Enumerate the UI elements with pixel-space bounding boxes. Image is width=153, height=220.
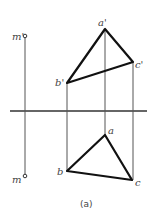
triangle-front-view — [67, 29, 133, 83]
label-m-prime: m' — [12, 31, 24, 42]
label-a: a — [108, 125, 114, 136]
label-c-prime: c' — [135, 59, 143, 70]
triangle-top-view — [67, 135, 132, 180]
label-b: b — [57, 166, 63, 177]
figure-caption: (a) — [80, 199, 93, 209]
label-a-prime: a' — [98, 17, 107, 28]
point-m — [23, 174, 27, 178]
projection-diagram: m' m a' b' c' a b c (a) — [0, 0, 153, 220]
label-m: m — [12, 174, 21, 185]
label-c: c — [135, 177, 141, 188]
label-b-prime: b' — [55, 77, 64, 88]
